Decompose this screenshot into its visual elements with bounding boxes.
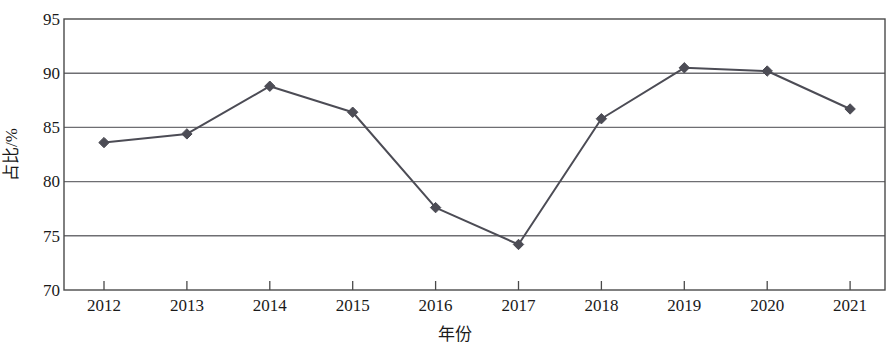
x-tick-label: 2014 xyxy=(235,297,305,314)
x-tick-label: 2019 xyxy=(649,297,719,314)
x-tick-label: 2015 xyxy=(318,297,388,314)
line-chart: 占比/% 95 90 85 80 75 70 20122013201420152… xyxy=(0,0,887,351)
x-tick-label: 2012 xyxy=(69,297,139,314)
x-tick-label: 2021 xyxy=(815,297,885,314)
x-tick-label: 2018 xyxy=(566,297,636,314)
x-axis-title: 年份 xyxy=(405,326,505,343)
x-tick-label: 2013 xyxy=(152,297,222,314)
x-axis-tick-labels: 2012201320142015201620172018201920202021 xyxy=(0,0,887,351)
x-tick-label: 2016 xyxy=(401,297,471,314)
x-tick-label: 2020 xyxy=(732,297,802,314)
x-tick-label: 2017 xyxy=(484,297,554,314)
